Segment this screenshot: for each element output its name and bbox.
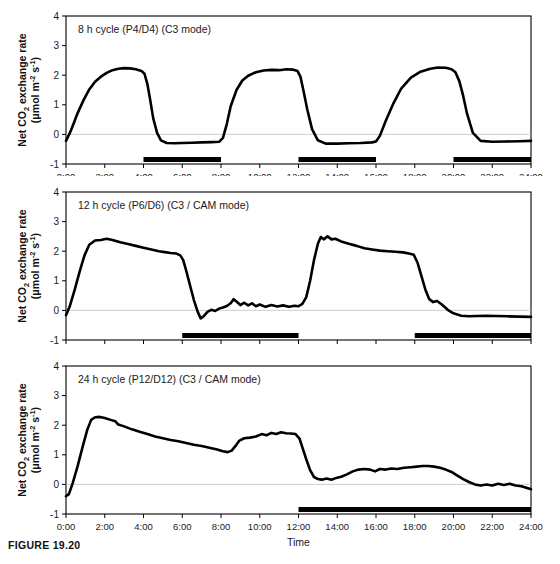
y-tick-label: 4 [53, 11, 59, 22]
panel-title: 12 h cycle (P6/D6) (C3 / CAM mode) [78, 199, 249, 211]
y-tick-label: 2 [53, 420, 59, 431]
y-tick-label: 3 [53, 216, 59, 227]
y-tick-label: 3 [53, 40, 59, 51]
panel-12h-cycle: -1012340:002:004:006:008:0010:0012:0014:… [0, 176, 560, 350]
y-tick-label: 2 [53, 246, 59, 257]
plot-frame [66, 366, 531, 514]
figure-container: -1012340:002:004:006:008:0010:0012:0014:… [0, 0, 560, 564]
panel-8h-cycle: -1012340:002:004:006:008:0010:0012:0014:… [0, 0, 560, 176]
chart-panel-2: -1012340:002:004:006:008:0010:0012:0014:… [0, 350, 560, 564]
y-tick-label: 2 [53, 70, 59, 81]
figure-caption: FIGURE 19.20 [8, 539, 80, 551]
x-tick-label: 24:00 [519, 521, 543, 532]
chart-panel-0: -1012340:002:004:006:008:0010:0012:0014:… [0, 0, 560, 176]
co2-exchange-curve [66, 68, 531, 144]
panel-24h-cycle: -1012340:002:004:006:008:0010:0012:0014:… [0, 350, 560, 564]
x-tick-label: 10:00 [248, 521, 272, 532]
y-tick-label: 1 [53, 449, 59, 460]
x-tick-label: 4:00 [134, 521, 153, 532]
x-tick-label: 14:00 [325, 521, 349, 532]
y-axis-label-line2: (μmol m-2 s-1) [28, 407, 41, 473]
y-axis-label-line2: (μmol m-2 s-1) [28, 233, 41, 299]
y-tick-label: 0 [53, 129, 59, 140]
x-tick-label: 22:00 [480, 521, 504, 532]
panel-title: 24 h cycle (P12/D12) (C3 / CAM mode) [78, 373, 261, 385]
x-tick-label: 2:00 [96, 521, 115, 532]
x-tick-label: 0:00 [57, 521, 76, 532]
y-tick-label: 1 [53, 275, 59, 286]
y-axis-label-line2: (μmol m-2 s-1) [28, 57, 41, 123]
y-tick-label: 3 [53, 390, 59, 401]
y-axis-label: Net CO2 exchange rate(μmol m-2 s-1) [16, 209, 41, 322]
dark-period-bar [299, 157, 377, 162]
y-tick-label: 4 [53, 187, 59, 198]
y-tick-label: -1 [50, 335, 59, 346]
x-tick-label: 12:00 [287, 521, 311, 532]
x-tick-label: 20:00 [442, 521, 466, 532]
y-tick-label: 0 [53, 305, 59, 316]
x-tick-label: 8:00 [212, 521, 231, 532]
y-tick-label: 1 [53, 99, 59, 110]
dark-period-bar [144, 157, 222, 162]
chart-panel-1: -1012340:002:004:006:008:0010:0012:0014:… [0, 176, 560, 350]
y-axis-label: Net CO2 exchange rate(μmol m-2 s-1) [16, 33, 41, 146]
co2-exchange-curve [66, 236, 531, 318]
y-tick-label: 0 [53, 479, 59, 490]
y-tick-label: 4 [53, 361, 59, 372]
x-axis-label: Time [287, 536, 310, 548]
y-tick-label: -1 [50, 509, 59, 520]
dark-period-bar [415, 333, 531, 338]
panel-title: 8 h cycle (P4/D4) (C3 mode) [78, 23, 211, 35]
dark-period-bar [299, 507, 532, 512]
dark-period-bar [182, 333, 298, 338]
y-axis-label: Net CO2 exchange rate(μmol m-2 s-1) [16, 383, 41, 496]
x-tick-label: 18:00 [403, 521, 427, 532]
y-tick-label: -1 [50, 159, 59, 170]
dark-period-bar [454, 157, 532, 162]
plot-frame [66, 192, 531, 340]
x-tick-label: 16:00 [364, 521, 388, 532]
x-tick-label: 6:00 [173, 521, 192, 532]
